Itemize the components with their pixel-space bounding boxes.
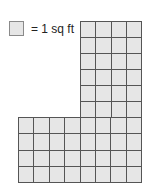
unit-square bbox=[81, 22, 95, 37]
unit-square bbox=[111, 118, 125, 133]
unit-square bbox=[96, 118, 110, 133]
unit-square bbox=[112, 38, 126, 53]
unit-square bbox=[34, 134, 48, 149]
unit-square bbox=[112, 86, 126, 101]
unit-square bbox=[81, 86, 95, 101]
unit-square bbox=[112, 22, 126, 37]
unit-square bbox=[65, 151, 79, 166]
unit-square bbox=[34, 151, 48, 166]
unit-square bbox=[81, 38, 95, 53]
unit-square bbox=[96, 102, 110, 117]
upper-grid-section bbox=[80, 21, 142, 118]
unit-square bbox=[81, 151, 95, 166]
unit-square bbox=[127, 118, 141, 133]
unit-square bbox=[96, 134, 110, 149]
unit-square bbox=[19, 151, 33, 166]
unit-square bbox=[127, 86, 141, 101]
unit-square bbox=[81, 134, 95, 149]
unit-square bbox=[81, 102, 95, 117]
unit-square bbox=[96, 86, 110, 101]
lower-grid-section bbox=[18, 117, 142, 183]
unit-square bbox=[127, 151, 141, 166]
unit-square bbox=[112, 70, 126, 85]
unit-square bbox=[127, 167, 141, 182]
unit-square bbox=[96, 167, 110, 182]
unit-square bbox=[50, 118, 64, 133]
unit-square bbox=[127, 22, 141, 37]
unit-square bbox=[65, 167, 79, 182]
unit-square bbox=[127, 134, 141, 149]
unit-square bbox=[112, 102, 126, 117]
unit-square bbox=[19, 134, 33, 149]
unit-square bbox=[81, 167, 95, 182]
unit-square bbox=[50, 167, 64, 182]
unit-square bbox=[127, 38, 141, 53]
unit-square bbox=[96, 38, 110, 53]
unit-square bbox=[81, 70, 95, 85]
unit-square bbox=[112, 54, 126, 69]
unit-square bbox=[81, 118, 95, 133]
unit-square bbox=[96, 151, 110, 166]
unit-square bbox=[81, 54, 95, 69]
unit-square bbox=[127, 102, 141, 117]
unit-square bbox=[65, 134, 79, 149]
unit-square bbox=[34, 167, 48, 182]
unit-square-legend-icon bbox=[9, 21, 24, 36]
unit-square bbox=[127, 70, 141, 85]
unit-square bbox=[19, 167, 33, 182]
unit-square bbox=[96, 70, 110, 85]
unit-square bbox=[111, 134, 125, 149]
unit-square bbox=[50, 134, 64, 149]
unit-square bbox=[111, 151, 125, 166]
unit-square bbox=[96, 22, 110, 37]
unit-square bbox=[34, 118, 48, 133]
unit-square bbox=[127, 54, 141, 69]
unit-square bbox=[65, 118, 79, 133]
unit-square bbox=[111, 167, 125, 182]
unit-square bbox=[19, 118, 33, 133]
legend-label: = 1 sq ft bbox=[31, 22, 74, 36]
unit-square bbox=[96, 54, 110, 69]
unit-square bbox=[50, 151, 64, 166]
